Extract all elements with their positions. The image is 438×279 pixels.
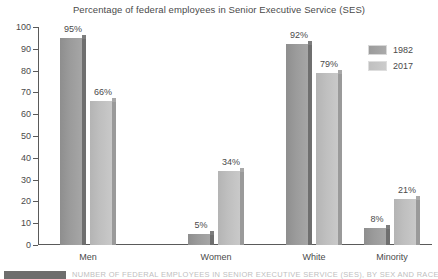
y-axis-tick (33, 223, 38, 224)
bar-face (364, 228, 386, 245)
caption-strip: NUMBER OF FEDERAL EMPLOYEES IN SENIOR EX… (0, 270, 438, 279)
x-axis-category-label: Women (188, 252, 244, 262)
bar-side (210, 234, 214, 245)
bar-side (82, 38, 86, 245)
bar-top (416, 196, 420, 200)
bar-side (240, 171, 244, 245)
bar-value-label: 79% (320, 59, 338, 69)
y-axis-tick (33, 180, 38, 181)
bar-top (112, 98, 116, 102)
bar-side (386, 228, 390, 245)
y-axis-tick-label: 30 (21, 175, 31, 185)
y-axis-line (38, 27, 39, 245)
y-axis-tick (33, 27, 38, 28)
y-axis-tick (33, 49, 38, 50)
bar-value-label: 34% (222, 157, 240, 167)
y-axis-tick-label: 40 (21, 153, 31, 163)
bar-face (218, 171, 240, 245)
x-axis-category-label: Minority (364, 252, 420, 262)
bar-women-2017: 34% (218, 171, 244, 245)
y-axis-tick-label: 70 (21, 87, 31, 97)
bar-value-label: 66% (94, 87, 112, 97)
bar-group: 95%66%Men (60, 27, 124, 245)
x-axis-category-label: Men (60, 252, 116, 262)
legend-item-1982[interactable]: 1982 (368, 44, 434, 55)
y-axis-tick-label: 60 (21, 109, 31, 119)
bar-face (60, 38, 82, 245)
bar-top (240, 168, 244, 172)
chart-legend: 19822017 (368, 44, 434, 76)
bar-group: 5%34%Women (188, 27, 252, 245)
y-axis-tick (33, 114, 38, 115)
bar-top (338, 70, 342, 74)
bar-white-2017: 79% (316, 73, 342, 245)
y-axis-tick-label: 100 (16, 22, 31, 32)
bar-minority-1982: 8% (364, 228, 390, 245)
y-axis-tick-label: 0 (26, 240, 31, 250)
legend-swatch (368, 45, 387, 55)
y-axis-tick-label: 20 (21, 196, 31, 206)
bar-top (82, 35, 86, 39)
y-axis-tick-label: 90 (21, 44, 31, 54)
bar-top (210, 231, 214, 235)
bar-value-label: 95% (64, 24, 82, 34)
bar-white-1982: 92% (286, 44, 312, 245)
bar-face (316, 73, 338, 245)
bar-side (112, 101, 116, 245)
legend-label: 2017 (393, 61, 413, 71)
bar-value-label: 21% (398, 185, 416, 195)
y-axis-tick (33, 158, 38, 159)
bar-side (338, 73, 342, 245)
ses-bar-chart: Percentage of federal employees in Senio… (0, 0, 438, 279)
x-axis-category-label: White (286, 252, 342, 262)
bar-women-1982: 5% (188, 234, 214, 245)
bar-top (386, 225, 390, 229)
bar-top (308, 41, 312, 45)
caption-text: NUMBER OF FEDERAL EMPLOYEES IN SENIOR EX… (72, 270, 438, 279)
bar-value-label: 8% (370, 214, 383, 224)
legend-label: 1982 (393, 45, 413, 55)
y-axis-tick (33, 92, 38, 93)
bar-side (416, 199, 420, 245)
y-axis-tick-label: 10 (21, 218, 31, 228)
y-axis-tick (33, 201, 38, 202)
bar-minority-2017: 21% (394, 199, 420, 245)
y-axis-tick (33, 71, 38, 72)
bar-group: 92%79%White (286, 27, 350, 245)
bar-value-label: 92% (290, 30, 308, 40)
chart-title: Percentage of federal employees in Senio… (0, 4, 438, 15)
bar-side (308, 44, 312, 245)
bar-men-1982: 95% (60, 38, 86, 245)
bar-face (394, 199, 416, 245)
y-axis-tick-label: 50 (21, 131, 31, 141)
bar-men-2017: 66% (90, 101, 116, 245)
legend-swatch (368, 61, 387, 71)
caption-tag-block (4, 271, 66, 279)
bar-face (286, 44, 308, 245)
bar-face (188, 234, 210, 245)
y-axis-tick (33, 136, 38, 137)
legend-item-2017[interactable]: 2017 (368, 60, 434, 71)
y-axis-tick (33, 245, 38, 246)
bar-value-label: 5% (194, 220, 207, 230)
bar-face (90, 101, 112, 245)
y-axis-tick-label: 80 (21, 66, 31, 76)
